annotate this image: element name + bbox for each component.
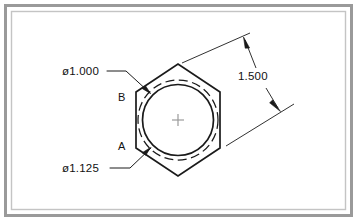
drawing-sheet: ø1.000 ø1.125 B A 1.500 [0, 0, 357, 221]
tag-label-a: A [118, 140, 126, 152]
tag-label-b: B [118, 91, 125, 103]
dimension-label-across-flats: 1.500 [238, 70, 268, 82]
technical-drawing-canvas: ø1.000 ø1.125 B A 1.500 [0, 0, 357, 221]
drawing-area [13, 13, 344, 208]
dimension-label-inner-diameter: ø1.125 [62, 162, 99, 174]
dimension-label-outer-diameter: ø1.000 [62, 65, 99, 77]
